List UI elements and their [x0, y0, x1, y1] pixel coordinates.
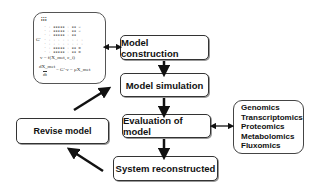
- system-to-revise-arrow: [72, 151, 103, 171]
- revise-to-construction-arrow: [74, 90, 106, 110]
- arrows-layer: [0, 0, 322, 193]
